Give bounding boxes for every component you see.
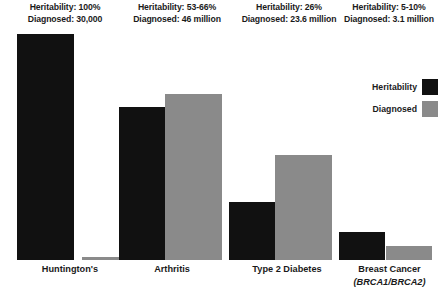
- category-label-type-2-diabetes: Type 2 Diabetes: [222, 263, 352, 276]
- bar-diagnosed-arthritis: [165, 94, 222, 260]
- annotation-row: Heritability: 100% Diagnosed: 30,000 Her…: [0, 0, 442, 28]
- annotation-heritability: Heritability: 100%: [0, 2, 130, 14]
- category-label-arthritis: Arthritis: [117, 263, 227, 276]
- category-name: Arthritis: [154, 264, 190, 274]
- bar-heritability-huntingtons: [17, 34, 74, 260]
- annotation-group-3: Heritability: 5-10% Diagnosed: 3.1 milli…: [336, 2, 442, 25]
- legend-swatch-icon: [422, 101, 438, 117]
- annotation-heritability: Heritability: 5-10%: [336, 2, 442, 14]
- annotation-diagnosed: Diagnosed: 30,000: [0, 14, 130, 26]
- annotation-group-0: Heritability: 100% Diagnosed: 30,000: [0, 2, 130, 25]
- bar-diagnosed-breast-cancer: [386, 246, 432, 260]
- legend-label: Diagnosed: [373, 104, 417, 114]
- plot-area: [0, 28, 442, 260]
- chart-legend: Heritability Diagnosed: [352, 78, 438, 122]
- legend-swatch-icon: [422, 79, 438, 95]
- category-subtitle: (BRCA1/BRCA2): [337, 276, 442, 289]
- category-label-huntingtons: Huntington's: [5, 263, 135, 276]
- bar-heritability-breast-cancer: [339, 232, 385, 260]
- category-axis: Huntington's Arthritis Type 2 Diabetes B…: [0, 260, 442, 295]
- category-name: Breast Cancer: [358, 264, 420, 274]
- annotation-diagnosed: Diagnosed: 3.1 million: [336, 14, 442, 26]
- bar-chart: Heritability: 100% Diagnosed: 30,000 Her…: [0, 0, 442, 295]
- category-name: Type 2 Diabetes: [252, 264, 321, 274]
- bar-diagnosed-type-2-diabetes: [275, 155, 332, 260]
- category-name: Huntington's: [42, 264, 98, 274]
- category-label-breast-cancer: Breast Cancer (BRCA1/BRCA2): [337, 263, 442, 288]
- legend-label: Heritability: [372, 82, 417, 92]
- legend-item-heritability: Heritability: [352, 78, 438, 96]
- legend-item-diagnosed: Diagnosed: [352, 100, 438, 118]
